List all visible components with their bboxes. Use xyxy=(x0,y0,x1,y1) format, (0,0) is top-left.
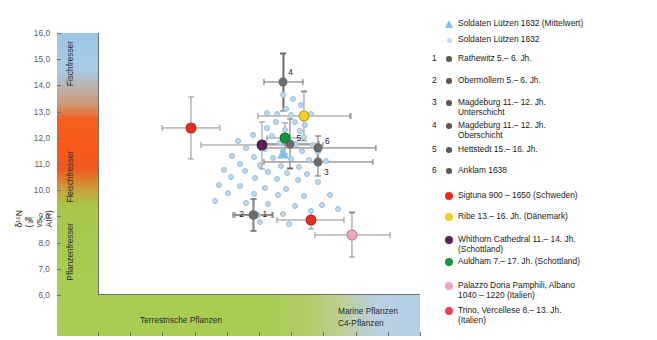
legend-item[interactable]: Soldaten Lützen 1632 (Mittelwert) xyxy=(432,18,583,29)
band-label-terrestrische: Terrestrische Pflanzen xyxy=(140,315,222,325)
error-bar-cap xyxy=(250,231,256,232)
error-bar-cap xyxy=(273,212,274,218)
legend-item[interactable]: 4Magdeburg 11.– 12. Jh. Oberschicht xyxy=(432,120,546,141)
scatter-point-soldat xyxy=(301,134,307,140)
scatter-point-soldat xyxy=(280,211,286,217)
x-tick xyxy=(323,332,324,336)
scatter-point-soldat xyxy=(264,110,270,116)
scatter-point-soldat xyxy=(295,177,301,183)
legend-label: Magdeburg 11.– 12. Jh. Unterschicht xyxy=(458,97,546,118)
error-bar-cap xyxy=(264,79,265,85)
scatter-point-soldat xyxy=(278,163,284,169)
legend-marker: 3 xyxy=(432,97,458,108)
legend-item[interactable]: Palazzo Doria Pamphili, Albano 1040 – 12… xyxy=(432,280,575,301)
scatter-point-soldat xyxy=(243,200,249,206)
legend-marker xyxy=(432,234,458,245)
error-bar-cap xyxy=(162,125,163,131)
legend-marker xyxy=(432,305,458,316)
legend-label: Palazzo Doria Pamphili, Albano 1040 – 12… xyxy=(458,280,575,301)
legend-item[interactable]: Trino, Vercellese 8.– 13. Jh. (Italien) xyxy=(432,305,562,326)
scatter-point-soldat xyxy=(251,154,257,160)
error-bar-cap xyxy=(315,135,321,136)
band-label-fleischfresser: Fleischfresser xyxy=(65,151,75,203)
legend-item[interactable]: 5Hettstedt 15.– 16. Jh. xyxy=(432,144,538,155)
legend-dot-icon xyxy=(445,307,453,315)
band-label-fischfresser: Fischfresser xyxy=(65,41,75,86)
legend-item[interactable]: Sigtuna 900 – 1650 (Schweden) xyxy=(432,190,578,201)
legend-marker: 6 xyxy=(432,165,458,176)
legend-dot-icon xyxy=(445,236,453,244)
legend-label: Rathewitz 5.– 6. Jh. xyxy=(458,53,532,63)
scatter-point-soldat xyxy=(288,112,294,118)
legend-dot-icon xyxy=(445,192,453,200)
data-marker-index-label: 5 xyxy=(297,133,302,143)
legend-item[interactable]: Auldham 7.– 17. Jh. (Schottland) xyxy=(432,256,580,267)
legend-dot-icon xyxy=(445,213,453,221)
data-marker-index-label: 2 xyxy=(239,209,244,219)
y-tick xyxy=(57,269,61,270)
error-bar-cap xyxy=(287,168,293,169)
scatter-point-soldat xyxy=(280,92,286,98)
legend-item[interactable]: 6Anklam 1638 xyxy=(432,165,507,176)
scatter-point-soldat xyxy=(274,176,280,182)
y-tick xyxy=(57,138,61,139)
error-bar-cap xyxy=(257,113,258,119)
scatter-point-soldat xyxy=(296,164,302,170)
legend-dot-icon xyxy=(446,168,452,174)
y-tick-label: 14,0 xyxy=(34,80,50,90)
data-marker-index-label: 1 xyxy=(263,209,268,219)
legend-item[interactable]: 2Obermöllern 5.– 6. Jh. xyxy=(432,75,541,86)
data-marker xyxy=(257,140,268,151)
band-label-c4: C4-Pflanzen xyxy=(338,318,384,328)
legend-index: 3 xyxy=(432,97,437,107)
x-tick xyxy=(162,332,163,336)
y-tick-label: 11,0 xyxy=(34,159,50,169)
error-bar-cap xyxy=(372,159,373,165)
scatter-point-soldat xyxy=(264,125,270,131)
x-tick xyxy=(227,332,228,336)
scatter-point-soldat xyxy=(301,193,307,199)
scatter-point-soldat xyxy=(335,206,341,212)
error-bar-cap xyxy=(220,125,221,131)
legend-item[interactable]: 1Rathewitz 5.– 6. Jh. xyxy=(432,53,532,64)
error-bar-cap xyxy=(343,217,344,223)
error-bar-cap xyxy=(376,145,377,151)
legend-dot-icon xyxy=(445,258,453,266)
y-tick xyxy=(57,85,61,86)
scatter-point-soldat xyxy=(235,138,241,144)
scatter-point-soldat xyxy=(221,167,227,173)
scatter-point-soldat xyxy=(257,219,263,225)
legend-item[interactable]: Soldaten Lützen 1632 xyxy=(432,34,540,45)
data-marker xyxy=(299,111,310,122)
error-bar-cap xyxy=(323,142,324,148)
scatter-point-soldat xyxy=(252,175,258,181)
x-tick xyxy=(356,332,357,336)
x-tick xyxy=(291,332,292,336)
scatter-point-soldat xyxy=(250,132,256,138)
scatter-point-soldat xyxy=(265,169,271,175)
x-tick xyxy=(388,332,389,336)
chart-legend: Soldaten Lützen 1632 (Mittelwert)Soldate… xyxy=(432,8,654,334)
scatter-point-soldat xyxy=(283,106,289,112)
scatter-point-soldat xyxy=(212,198,218,204)
trophic-level-gradient-band xyxy=(57,33,98,295)
error-bar-cap xyxy=(188,158,194,159)
error-bar-cap xyxy=(301,91,307,92)
legend-marker xyxy=(432,34,458,45)
legend-dot-icon xyxy=(445,282,453,290)
legend-label: Soldaten Lützen 1632 xyxy=(458,34,540,44)
scatter-point-soldat xyxy=(327,192,333,198)
error-bar-cap xyxy=(250,198,256,199)
legend-dot-icon xyxy=(446,78,452,84)
data-marker-index-label: 3 xyxy=(324,167,329,177)
error-bar-cap xyxy=(350,113,351,119)
scatter-point-soldat xyxy=(243,145,249,151)
y-tick-label: 15,0 xyxy=(34,54,50,64)
legend-marker xyxy=(432,211,458,222)
legend-item[interactable]: Whithorn Cathedral 11.– 14. Jh. (Schottl… xyxy=(432,234,576,255)
legend-item[interactable]: Ribe 13.– 16. Jh. (Dänemark) xyxy=(432,211,568,222)
y-tick xyxy=(57,112,61,113)
y-tick xyxy=(57,243,61,244)
legend-item[interactable]: 3Magdeburg 11.– 12. Jh. Unterschicht xyxy=(432,97,546,118)
error-bar-cap xyxy=(315,176,321,177)
